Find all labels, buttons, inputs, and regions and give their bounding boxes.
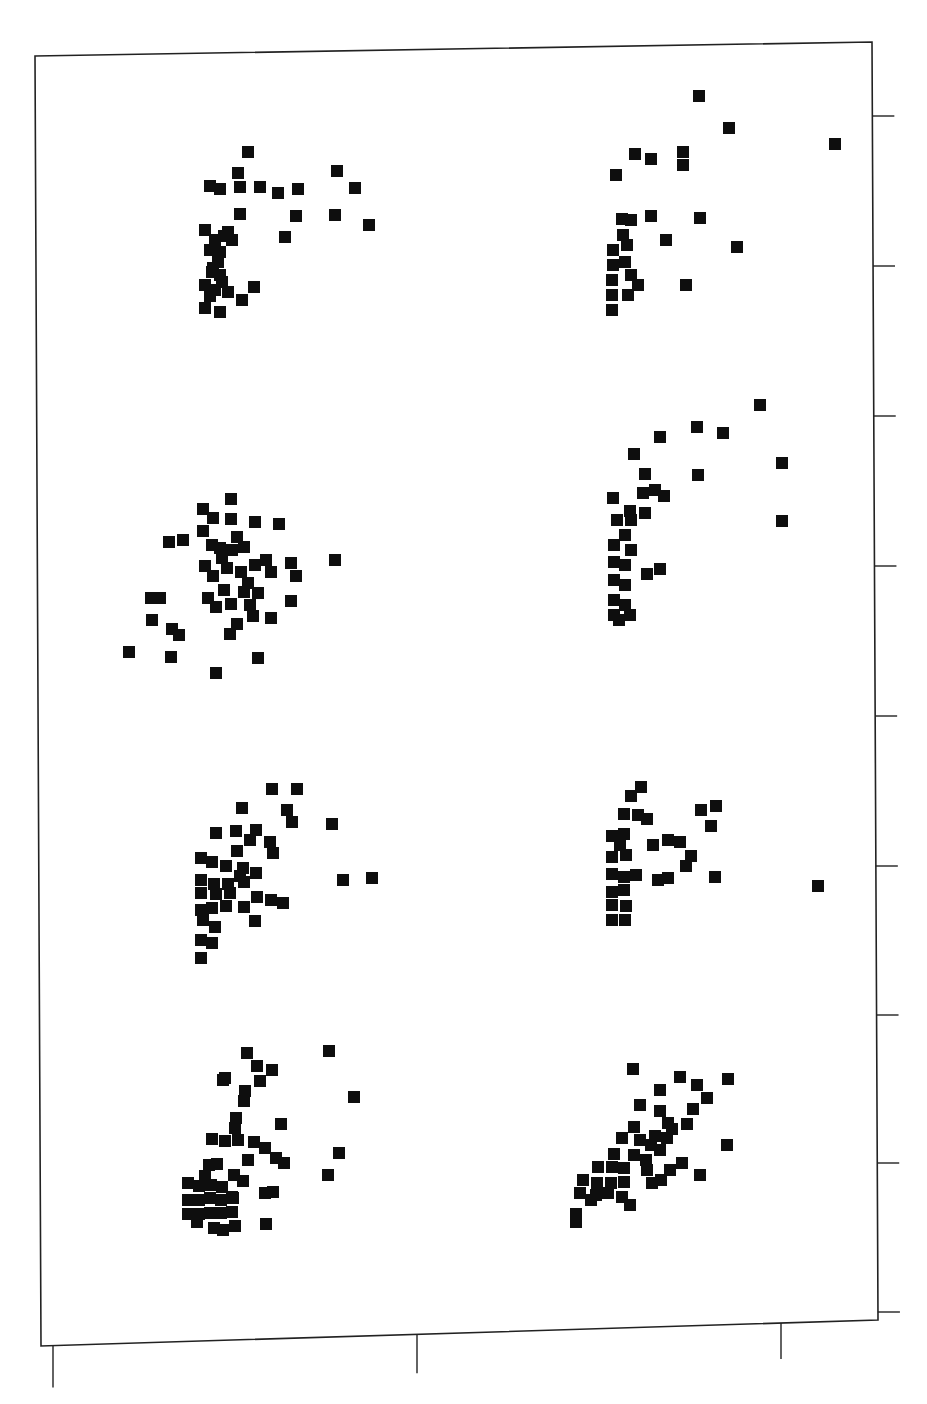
data-point — [242, 146, 254, 158]
plot-border — [35, 42, 878, 1346]
data-point — [618, 828, 630, 840]
data-point — [254, 181, 266, 193]
data-point — [265, 566, 277, 578]
data-point — [829, 138, 841, 150]
data-point — [641, 1164, 653, 1176]
data-point — [677, 146, 689, 158]
data-point — [620, 849, 632, 861]
data-point — [254, 1075, 266, 1087]
data-point — [265, 612, 277, 624]
data-point — [163, 536, 175, 548]
data-point — [249, 559, 261, 571]
data-point — [242, 577, 254, 589]
data-point — [238, 901, 250, 913]
data-point — [618, 884, 630, 896]
data-point — [611, 514, 623, 526]
data-point — [641, 813, 653, 825]
data-point — [619, 579, 631, 591]
data-point — [331, 165, 343, 177]
data-point — [210, 667, 222, 679]
data-point — [195, 934, 207, 946]
data-point — [222, 286, 234, 298]
data-point — [207, 512, 219, 524]
data-point — [606, 851, 618, 863]
data-point — [592, 1161, 604, 1173]
data-point — [210, 888, 222, 900]
data-point — [232, 1134, 244, 1146]
data-point — [286, 816, 298, 828]
data-point — [267, 1186, 279, 1198]
data-point — [618, 808, 630, 820]
data-point — [195, 952, 207, 964]
axis-ticks — [53, 116, 900, 1387]
data-point — [229, 1220, 241, 1232]
data-point — [225, 513, 237, 525]
data-point — [215, 1194, 227, 1206]
data-point — [337, 874, 349, 886]
data-point — [204, 1207, 216, 1219]
data-point — [242, 1154, 254, 1166]
data-point — [217, 1224, 229, 1236]
data-point — [629, 148, 641, 160]
data-point — [577, 1174, 589, 1186]
panel-r2-c2 — [607, 399, 788, 626]
data-point — [206, 937, 218, 949]
data-point — [224, 887, 236, 899]
data-point — [570, 1208, 582, 1220]
data-point — [226, 544, 238, 556]
data-point — [776, 457, 788, 469]
data-point — [193, 1180, 205, 1192]
data-point — [197, 914, 209, 926]
data-point — [252, 652, 264, 664]
data-point — [363, 219, 375, 231]
data-point — [236, 802, 248, 814]
data-point — [226, 234, 238, 246]
data-point — [625, 514, 637, 526]
data-point — [693, 90, 705, 102]
data-point — [606, 914, 618, 926]
data-point — [197, 525, 209, 537]
data-point — [608, 556, 620, 568]
data-point — [655, 1174, 667, 1186]
data-point — [628, 1149, 640, 1161]
data-point — [591, 1177, 603, 1189]
data-point — [622, 289, 634, 301]
data-point — [206, 1133, 218, 1145]
data-point — [231, 845, 243, 857]
data-point — [291, 783, 303, 795]
data-point — [608, 594, 620, 606]
data-point — [613, 614, 625, 626]
panel-r1-c2 — [606, 90, 841, 316]
data-point — [251, 1060, 263, 1072]
data-point — [177, 534, 189, 546]
data-point — [250, 867, 262, 879]
data-point — [618, 1162, 630, 1174]
data-point — [606, 868, 618, 880]
data-point — [701, 1092, 713, 1104]
data-point — [278, 1157, 290, 1169]
data-point — [637, 487, 649, 499]
data-point — [225, 493, 237, 505]
data-point — [329, 554, 341, 566]
data-point — [691, 421, 703, 433]
scatter-matrix-chart — [0, 0, 927, 1404]
data-point — [218, 584, 230, 596]
data-point — [754, 399, 766, 411]
data-point — [248, 281, 260, 293]
data-point — [607, 244, 619, 256]
data-point — [266, 1064, 278, 1076]
data-point — [624, 609, 636, 621]
data-point — [619, 914, 631, 926]
data-point — [329, 209, 341, 221]
data-point — [217, 1074, 229, 1086]
data-point — [285, 595, 297, 607]
data-point — [639, 507, 651, 519]
data-point — [292, 183, 304, 195]
data-point — [654, 563, 666, 575]
data-point — [204, 290, 216, 302]
data-point — [281, 804, 293, 816]
data-point — [627, 1063, 639, 1075]
data-point — [182, 1194, 194, 1206]
panel-r3-c1 — [195, 783, 378, 964]
data-point — [680, 860, 692, 872]
